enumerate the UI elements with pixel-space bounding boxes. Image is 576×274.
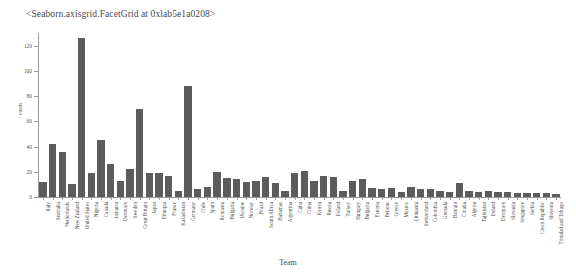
x-tick-mark [91, 197, 92, 200]
bar-slot: Bulgaria [222, 33, 232, 197]
bar-slot: Croatia [454, 33, 464, 197]
bar [155, 173, 162, 197]
x-tick-label: Tajikistan [481, 202, 487, 222]
x-tick-mark [120, 197, 121, 200]
bar-slot: Ukraine [232, 33, 242, 197]
x-tick-label: Slovenia [548, 202, 554, 220]
x-tick-mark [314, 197, 315, 200]
bar [291, 173, 298, 197]
bar-slot: Tajikistan [474, 33, 484, 197]
x-tick-label: Colombia [432, 202, 438, 222]
x-tick-mark [188, 197, 189, 200]
x-tick-mark [82, 197, 83, 200]
x-tick-label: Jamaica [113, 202, 119, 218]
x-tick-mark [198, 197, 199, 200]
x-tick-mark [401, 197, 402, 200]
x-tick-label: Romania [219, 202, 225, 220]
bar-slot: Bahamas [270, 33, 280, 197]
x-tick-label: Canada [103, 202, 109, 217]
bar-slot: South Africa [261, 33, 271, 197]
x-tick-mark [527, 197, 528, 200]
x-tick-mark [469, 197, 470, 200]
x-tick-mark [72, 197, 73, 200]
x-tick-label: Grenada [442, 202, 448, 219]
bar-slot: Sweden [125, 33, 135, 197]
bar-slot: Grenada [435, 33, 445, 197]
x-tick-mark [362, 197, 363, 200]
bar-slot: Spain [203, 33, 213, 197]
x-tick-mark [149, 197, 150, 200]
x-tick-label: Australia [55, 202, 61, 221]
x-tick-label: Czech Republic [539, 202, 545, 234]
x-tick-mark [508, 197, 509, 200]
x-tick-mark [237, 197, 238, 200]
x-tick-label: Lithuania [413, 202, 419, 222]
bar [407, 187, 414, 197]
x-tick-label: United States [84, 202, 90, 229]
y-tick-label: 20 [27, 169, 32, 175]
x-tick-mark [43, 197, 44, 200]
x-tick-label: Ukraine [239, 202, 245, 218]
bar-slot: Czech Republic [532, 33, 542, 197]
bar-slot: Great Britain [135, 33, 145, 197]
x-tick-mark [498, 197, 499, 200]
bar [117, 181, 124, 197]
bar [368, 188, 375, 197]
x-tick-mark [295, 197, 296, 200]
x-tick-label: Serbia [529, 202, 535, 215]
y-tick-label: 40 [27, 144, 32, 150]
y-tick-mark [34, 197, 38, 198]
x-tick-label: Bahamas [277, 202, 283, 221]
x-tick-mark [517, 197, 518, 200]
bar-slot: Poland [329, 33, 339, 197]
bar-slot: Norway [241, 33, 251, 197]
bar [78, 38, 85, 197]
bar-slot: Cuba [290, 33, 300, 197]
x-tick-mark [227, 197, 228, 200]
bar [97, 140, 104, 197]
bar [320, 176, 327, 197]
bar [301, 171, 308, 197]
x-tick-mark [391, 197, 392, 200]
x-tick-label: Ireland [490, 202, 496, 216]
x-tick-mark [353, 197, 354, 200]
x-tick-label: New Zealand [74, 202, 80, 229]
bar-slot: Germany [183, 33, 193, 197]
bar [184, 86, 191, 197]
x-tick-mark [285, 197, 286, 200]
x-tick-mark [217, 197, 218, 200]
y-axis-label: count [17, 103, 23, 115]
bar-slot: Slovakia [503, 33, 513, 197]
x-tick-label: Italy [45, 202, 51, 211]
bar-slot: Hungary [348, 33, 358, 197]
bar [146, 173, 153, 197]
y-tick-label: 80 [27, 93, 32, 99]
x-tick-mark [111, 197, 112, 200]
x-tick-mark [479, 197, 480, 200]
bar-slot: Italy [38, 33, 48, 197]
bar-slot: Singapore [513, 33, 523, 197]
x-tick-label: Netherlands [64, 202, 70, 227]
x-tick-label: China [306, 202, 312, 214]
bar [204, 187, 211, 197]
x-tick-label: Greece [393, 202, 399, 216]
bar-slot: Jamaica [106, 33, 116, 197]
x-tick-label: Great Britain [142, 202, 148, 229]
x-tick-label: Poland [335, 202, 341, 216]
bar-slot: Slovenia [542, 33, 552, 197]
x-tick-label: Bulgaria [364, 202, 370, 220]
x-tick-mark [411, 197, 412, 200]
x-tick-mark [430, 197, 431, 200]
bar [417, 189, 424, 197]
y-tick-label: 100 [24, 68, 32, 74]
bar [252, 181, 259, 197]
x-tick-mark [159, 197, 160, 200]
x-tick-label: Slovakia [510, 202, 516, 220]
bar-slot: Bahrain [445, 33, 455, 197]
x-tick-mark [421, 197, 422, 200]
x-tick-mark [256, 197, 257, 200]
bar-slot: Belarus [377, 33, 387, 197]
x-tick-mark [324, 197, 325, 200]
x-tick-mark [207, 197, 208, 200]
bar [49, 144, 56, 197]
